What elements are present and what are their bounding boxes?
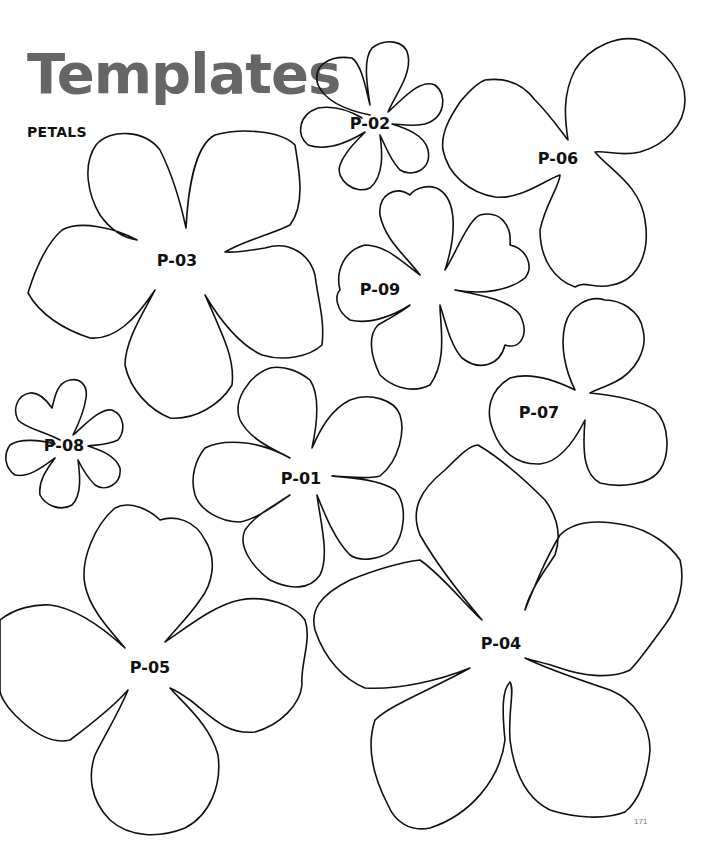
template-label-p04: P-04 xyxy=(481,634,521,653)
template-label-p08: P-08 xyxy=(44,436,84,455)
template-label-p05: P-05 xyxy=(130,658,170,677)
petal-template-p07-outline xyxy=(489,299,667,486)
template-label-p02: P-02 xyxy=(350,114,390,133)
template-label-p01: P-01 xyxy=(281,469,321,488)
template-label-p09: P-09 xyxy=(360,280,400,299)
template-label-p03: P-03 xyxy=(157,251,197,270)
template-label-p07: P-07 xyxy=(519,403,559,422)
template-page: Templates PETALS xyxy=(0,0,701,858)
petal-template-p03-outline xyxy=(28,131,323,418)
template-label-p06: P-06 xyxy=(538,149,578,168)
page-number: 171 xyxy=(634,817,647,826)
